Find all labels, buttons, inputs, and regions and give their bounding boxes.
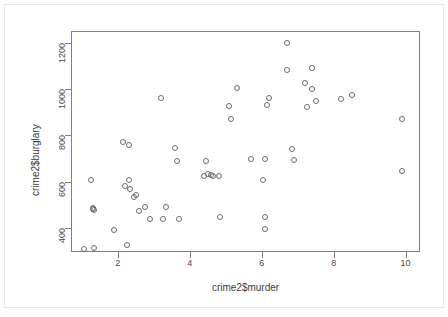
y-tick-label-text: 600	[57, 182, 67, 197]
scatter-plot-figure: 40060080010001200 246810 crime2$burglary…	[0, 0, 448, 317]
x-axis-title: crime2$murder	[71, 282, 420, 293]
x-tick-label: 2	[103, 258, 133, 268]
y-tick-label: 1200	[0, 38, 62, 48]
x-tick-label: 6	[247, 258, 277, 268]
y-tick-label: 1000	[0, 84, 62, 94]
y-axis-title-text: crime2$burglary	[30, 124, 41, 196]
y-tick-label-text: 1200	[57, 43, 67, 63]
y-tick-label-text: 400	[57, 228, 67, 243]
x-axis-title-text: crime2$murder	[212, 282, 279, 293]
x-tick-label: 10	[391, 258, 421, 268]
y-tick-label-text: 1000	[57, 89, 67, 109]
plot-panel-box	[71, 31, 420, 252]
x-tick-label: 8	[319, 258, 349, 268]
y-tick-label-text: 800	[57, 135, 67, 150]
x-tick-label: 4	[175, 258, 205, 268]
y-tick-label: 400	[0, 223, 62, 233]
y-axis-title: crime2$burglary	[18, 96, 32, 196]
